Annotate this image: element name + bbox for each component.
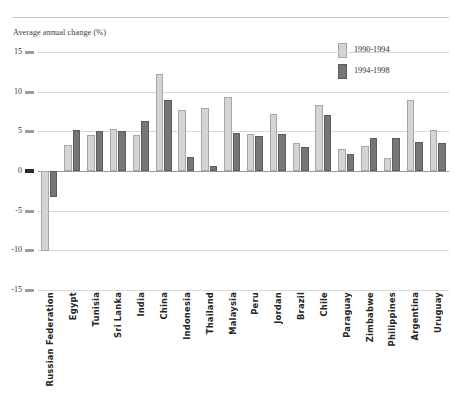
bar-thailand-1994-1998 xyxy=(210,166,218,171)
bar-jordan-1990-1994 xyxy=(270,114,278,171)
y-tick-mark-10 xyxy=(25,91,34,94)
x-axis-label-brazil: Brazil xyxy=(296,292,306,320)
x-axis-label-sri-lanka: Sri Lanka xyxy=(113,292,123,338)
bar-peru-1990-1994 xyxy=(247,134,255,171)
bar-group xyxy=(244,52,267,290)
bar-russian-federation-1990-1994 xyxy=(41,171,49,251)
gridline--15 xyxy=(38,290,449,291)
bar-malaysia-1990-1994 xyxy=(224,97,232,171)
bar-group xyxy=(175,52,198,290)
bar-paraguay-1994-1998 xyxy=(347,154,355,171)
bar-egypt-1994-1998 xyxy=(73,130,81,171)
bar-thailand-1990-1994 xyxy=(201,108,209,171)
y-tick-label--10: -10 xyxy=(0,245,22,254)
y-tick-label--5: -5 xyxy=(0,206,22,215)
bar-indonesia-1994-1998 xyxy=(187,157,195,171)
bar-argentina-1990-1994 xyxy=(407,100,415,171)
y-tick-mark--5 xyxy=(25,210,34,213)
x-axis-label-jordan: Jordan xyxy=(273,292,283,324)
bar-group xyxy=(129,52,152,290)
bar-chile-1990-1994 xyxy=(315,105,323,171)
bar-uruguay-1994-1998 xyxy=(438,143,446,171)
bar-group xyxy=(107,52,130,290)
bar-series-container xyxy=(38,52,449,290)
bar-group xyxy=(61,52,84,290)
y-tick-mark--15 xyxy=(25,289,34,292)
x-axis-label-tunisia: Tunisia xyxy=(91,292,101,327)
bar-zimbabwe-1990-1994 xyxy=(361,146,369,171)
bar-uruguay-1990-1994 xyxy=(430,130,438,171)
chart-page: Average annual change (%) 1990-1994 1994… xyxy=(0,0,455,412)
bar-peru-1994-1998 xyxy=(255,136,263,171)
bar-philippines-1990-1994 xyxy=(384,158,392,171)
x-axis-labels: Russian FederationEgyptTunisiaSri LankaI… xyxy=(38,292,449,410)
bar-philippines-1994-1998 xyxy=(392,138,400,171)
bar-brazil-1994-1998 xyxy=(301,147,309,171)
bar-india-1994-1998 xyxy=(141,121,149,171)
bar-brazil-1990-1994 xyxy=(293,143,301,171)
bar-russian-federation-1994-1998 xyxy=(50,171,58,197)
y-tick-label-5: 5 xyxy=(0,126,22,135)
y-tick-mark-0 xyxy=(25,169,34,173)
bar-group xyxy=(221,52,244,290)
y-tick-mark-5 xyxy=(25,130,34,133)
x-axis-label-argentina: Argentina xyxy=(410,292,420,341)
x-axis-label-philippines: Philippines xyxy=(387,292,397,346)
y-axis-title: Average annual change (%) xyxy=(13,28,106,37)
bar-zimbabwe-1994-1998 xyxy=(370,138,378,171)
plot-area: 151050-5-10-15 xyxy=(38,52,449,290)
bar-group xyxy=(38,52,61,290)
bar-group xyxy=(84,52,107,290)
y-tick-mark--10 xyxy=(25,249,34,252)
bar-paraguay-1990-1994 xyxy=(338,149,346,171)
x-axis-label-indonesia: Indonesia xyxy=(182,292,192,340)
bar-group xyxy=(426,52,449,290)
bar-group xyxy=(358,52,381,290)
bar-group xyxy=(312,52,335,290)
header-divider xyxy=(12,17,449,18)
bar-egypt-1990-1994 xyxy=(64,145,72,171)
y-tick-mark-15 xyxy=(25,51,34,54)
bar-tunisia-1994-1998 xyxy=(96,131,104,171)
x-axis-label-paraguay: Paraguay xyxy=(342,292,352,338)
x-axis-label-india: India xyxy=(136,292,146,317)
x-axis-label-uruguay: Uruguay xyxy=(433,292,443,333)
bar-group xyxy=(289,52,312,290)
y-tick-label-15: 15 xyxy=(0,47,22,56)
y-tick-label-10: 10 xyxy=(0,87,22,96)
x-axis-label-egypt: Egypt xyxy=(68,292,78,320)
y-tick-label--15: -15 xyxy=(0,285,22,294)
x-axis-label-russian-federation: Russian Federation xyxy=(45,292,55,387)
bar-group xyxy=(152,52,175,290)
bar-malaysia-1994-1998 xyxy=(233,133,241,171)
bar-jordan-1994-1998 xyxy=(278,134,286,171)
bar-chile-1994-1998 xyxy=(324,115,332,171)
bar-group xyxy=(335,52,358,290)
bar-group xyxy=(266,52,289,290)
bar-india-1990-1994 xyxy=(133,135,141,171)
x-axis-label-malaysia: Malaysia xyxy=(228,292,238,335)
bar-sri-lanka-1994-1998 xyxy=(118,131,126,171)
x-axis-label-zimbabwe: Zimbabwe xyxy=(365,292,375,342)
y-tick-label-0: 0 xyxy=(0,166,22,175)
x-axis-label-peru: Peru xyxy=(250,292,260,315)
x-axis-label-chile: Chile xyxy=(319,292,329,317)
x-axis-label-thailand: Thailand xyxy=(205,292,215,334)
bar-group xyxy=(198,52,221,290)
bar-argentina-1994-1998 xyxy=(415,142,423,171)
bar-sri-lanka-1990-1994 xyxy=(110,129,118,171)
bar-tunisia-1990-1994 xyxy=(87,135,95,171)
bar-group xyxy=(403,52,426,290)
bar-china-1990-1994 xyxy=(156,74,164,171)
bar-china-1994-1998 xyxy=(164,100,172,171)
bar-indonesia-1990-1994 xyxy=(178,110,186,171)
bar-group xyxy=(381,52,404,290)
x-axis-label-china: China xyxy=(159,292,169,320)
